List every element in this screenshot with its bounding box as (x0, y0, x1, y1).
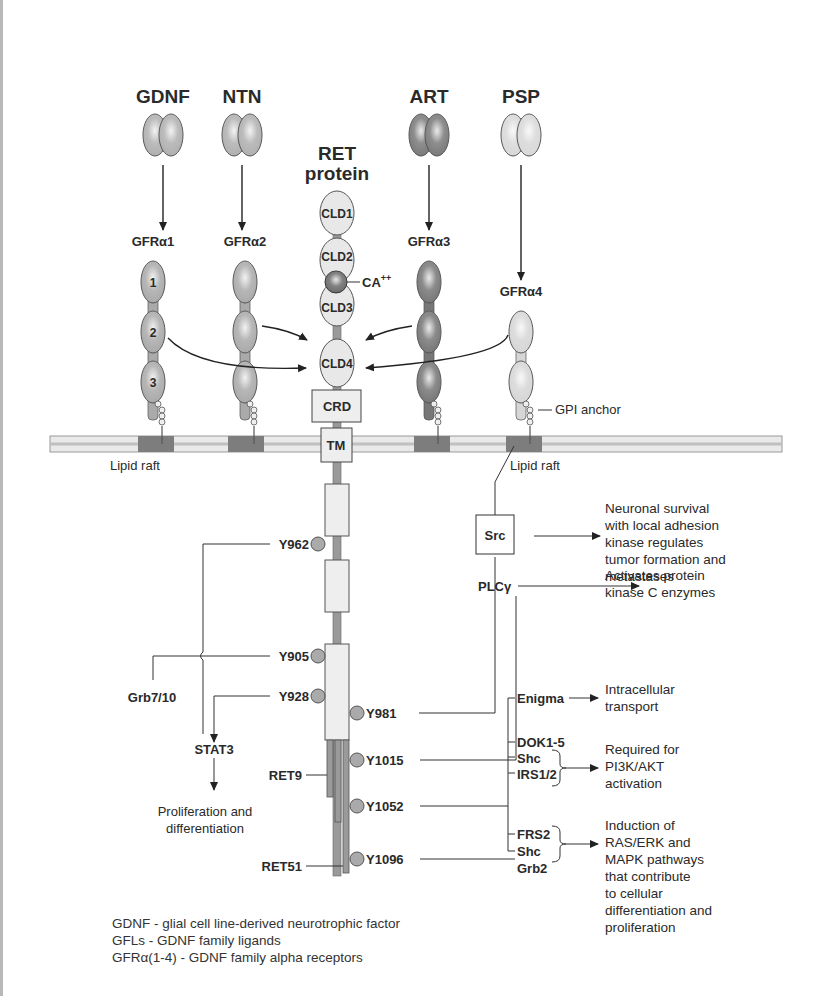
outcome-pi3k: activation (605, 776, 662, 791)
stat3-label: STAT3 (194, 742, 233, 757)
adaptor-enigma: Enigma (517, 691, 565, 706)
svg-text:1: 1 (150, 276, 157, 290)
tyrosine-y1015: Y1015 (350, 753, 404, 768)
svg-text:CLD1: CLD1 (321, 207, 353, 221)
kinase-domain-box (325, 560, 349, 612)
crd-domain: CRD (312, 390, 361, 422)
ret-subtitle: protein (305, 163, 369, 184)
ligand-art: ART (409, 86, 449, 230)
svg-text:Y962: Y962 (279, 537, 309, 552)
outcome-enigma: Intracellular (605, 682, 675, 697)
cld4-domain: CLD4 (320, 339, 354, 387)
svg-text:Y928: Y928 (279, 689, 309, 704)
tyrosines-right: Y981Y1015Y1052Y1096 (350, 706, 404, 867)
lipid-raft-label-right: Lipid raft (510, 458, 560, 473)
lipid-raft (414, 436, 450, 452)
legend-gdnf: GDNF - glial cell line-derived neurotrop… (112, 915, 400, 932)
src-node: Src (476, 515, 514, 554)
outcome-src: with local adhesion (604, 518, 719, 533)
svg-text:GDNF: GDNF (136, 86, 190, 107)
receptor-gfra2: GFRα2 (224, 234, 267, 444)
cell-membrane (50, 436, 782, 452)
adaptor-dok15: DOK1-5 (517, 735, 565, 750)
ret-title: RET (318, 143, 356, 164)
lipid-raft (228, 436, 264, 452)
outcome-pi3k: PI3K/AKT (605, 759, 664, 774)
plc-gamma-label: PLCγ (478, 579, 512, 594)
tyrosine-y981: Y981 (350, 706, 396, 721)
calcium-ion (325, 271, 347, 293)
svg-text:NTN: NTN (222, 86, 261, 107)
outcome-src: Neuronal survival (605, 501, 709, 516)
svg-text:Y1052: Y1052 (366, 799, 404, 814)
adaptor-proteins: EnigmaDOK1-5ShcIRS1/2FRS2ShcGrb2 (517, 691, 565, 876)
grb7-10-label: Grb7/10 (128, 690, 176, 705)
svg-text:Y981: Y981 (366, 706, 396, 721)
gpi-anchor-label: GPI anchor (555, 402, 621, 417)
svg-text:PSP: PSP (502, 86, 540, 107)
receptor-gfra3: GFRα3 (408, 234, 451, 444)
tm-domain: TM (321, 428, 352, 462)
svg-text:3: 3 (150, 376, 157, 390)
svg-text:ART: ART (409, 86, 448, 107)
outcome-pi3k: Required for (605, 742, 680, 757)
ligand-ntn: NTN (222, 86, 262, 230)
svg-text:CLD2: CLD2 (321, 250, 353, 264)
svg-text:TM: TM (327, 438, 346, 453)
svg-text:CRD: CRD (323, 399, 351, 414)
ret43-tail (335, 740, 341, 822)
kinase-domain-box (325, 644, 349, 740)
adaptor-shc: Shc (517, 751, 541, 766)
svg-text:GFRα2: GFRα2 (224, 234, 267, 249)
lipid-raft (506, 436, 542, 452)
svg-text:GFRα4: GFRα4 (500, 284, 543, 299)
tyrosine-y928: Y928 (279, 689, 325, 704)
tyrosine-y1052: Y1052 (350, 799, 404, 814)
tyrosine-y905: Y905 (279, 649, 325, 664)
ret9-tail (327, 740, 333, 797)
abbreviation-legend: GDNF - glial cell line-derived neurotrop… (112, 915, 400, 966)
svg-text:Src: Src (485, 528, 506, 543)
svg-text:Y905: Y905 (279, 649, 309, 664)
ret9-label: RET9 (269, 768, 302, 783)
tyrosines-left: Y962Y905Y928 (279, 537, 325, 704)
svg-text:CLD4: CLD4 (321, 357, 353, 371)
cld1-domain: CLD1 (320, 191, 354, 235)
adaptor-grb2: Grb2 (517, 861, 547, 876)
calcium-label: CA++ (362, 273, 391, 290)
svg-text:2: 2 (150, 326, 157, 340)
outcome-plcg: Activates protein (605, 568, 705, 583)
ret-signaling-diagram: Lipid raft Lipid raft GPI anchor GDNFNTN… (0, 0, 816, 996)
tyrosine-y1096: Y1096 (350, 852, 404, 867)
receptor-gfra4: GFRα4 (500, 284, 543, 444)
outcome-ras: Induction of (605, 818, 675, 833)
ret51-label: RET51 (262, 859, 302, 874)
outcome-src: kinase regulates (605, 535, 704, 550)
svg-text:GFRα1: GFRα1 (132, 234, 175, 249)
outcome-ras: to cellular (605, 886, 663, 901)
outcome-enigma: transport (605, 699, 659, 714)
proliferation-outcome-2: differentiation (166, 821, 244, 836)
adaptor-frs2: FRS2 (517, 827, 550, 842)
outcome-ras: differentiation and (605, 903, 712, 918)
lipid-raft-label-left: Lipid raft (110, 458, 160, 473)
legend-gfra: GFRα(1-4) - GDNF family alpha receptors (112, 949, 400, 966)
outcome-ras: RAS/ERK and (605, 835, 691, 850)
outcome-plcg: kinase C enzymes (605, 585, 716, 600)
outcome-ras: MAPK pathways (605, 852, 704, 867)
svg-text:CLD3: CLD3 (321, 301, 353, 315)
svg-text:Y1096: Y1096 (366, 852, 404, 867)
outcome-src: tumor formation and (605, 552, 726, 567)
svg-text:Y1015: Y1015 (366, 753, 404, 768)
pathway-outcomes: Neuronal survivalwith local adhesionkina… (604, 501, 726, 935)
adaptor-shc: Shc (517, 844, 541, 859)
outcome-ras: that contribute (605, 869, 691, 884)
lipid-raft (138, 436, 174, 452)
legend-gfls: GFLs - GDNF family ligands (112, 932, 400, 949)
receptor-gfra1: GFRα1123 (132, 234, 175, 444)
ligand-psp: PSP (501, 86, 541, 280)
ligand-gdnf: GDNF (136, 86, 190, 230)
outcome-ras: proliferation (605, 920, 676, 935)
svg-text:GFRα3: GFRα3 (408, 234, 451, 249)
kinase-domain-box (325, 484, 349, 536)
